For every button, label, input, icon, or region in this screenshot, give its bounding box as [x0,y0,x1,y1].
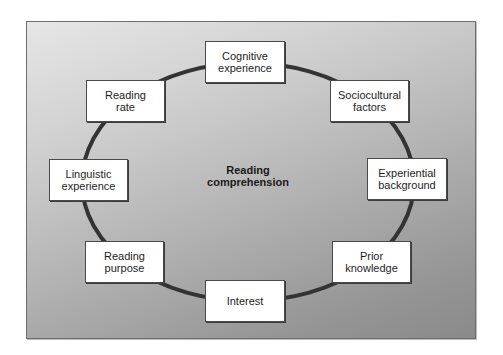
node-label-line1: Reading [105,89,146,101]
center-concept-label: Reading comprehension [188,164,308,188]
node-linguistic-experience: Linguistic experience [49,159,128,201]
node-label-line2: experience [218,62,272,74]
node-label-line1: Prior [360,250,383,262]
node-label-line2: purpose [105,262,145,274]
node-label-line2: knowledge [345,262,398,274]
node-label-line1: Reading [104,250,145,262]
node-experiential-background: Experiential background [367,158,447,200]
node-label-line2: experience [62,180,116,192]
node-cognitive-experience: Cognitive experience [205,41,285,83]
node-label-line1: Interest [227,295,264,307]
node-label-line1: Cognitive [222,50,268,62]
node-label-line2: factors [353,101,386,113]
node-sociocultural-factors: Sociocultural factors [330,80,409,122]
node-label-line2: background [378,179,436,191]
center-label-line1: Reading [188,164,308,176]
node-label-line1: Sociocultural [338,89,401,101]
node-label-line1: Linguistic [66,168,112,180]
center-label-line2: comprehension [188,176,308,188]
node-reading-purpose: Reading purpose [85,241,164,283]
node-reading-rate: Reading rate [86,80,165,122]
node-interest: Interest [205,280,285,322]
node-label-line2: rate [116,101,135,113]
node-prior-knowledge: Prior knowledge [332,241,411,283]
node-label-line1: Experiential [378,167,435,179]
